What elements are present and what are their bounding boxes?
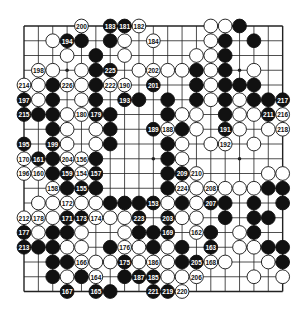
white-stone [175,63,189,77]
white-stone [247,63,261,77]
white-stone-icon [175,137,189,151]
black-stone [46,167,60,181]
white-stone-icon [60,49,74,63]
black-stone [233,19,247,33]
white-stone [204,78,218,92]
white-stone-icon [75,196,89,210]
black-stone-icon [190,93,204,107]
white-stone-icon [218,255,232,269]
white-stone-icon [46,34,60,48]
white-stone-icon [31,93,45,107]
black-stone [218,78,232,92]
white-stone: 174 [89,211,103,225]
white-stone [233,122,247,136]
white-stone-icon [75,93,89,107]
move-number: 158 [47,185,58,192]
black-stone-icon [103,137,117,151]
move-number: 186 [148,259,159,266]
white-stone-icon [247,108,261,122]
black-stone: 197 [17,93,31,107]
go-board-diagram: 2001831811821941841982252022142262221902… [0,0,304,312]
white-stone: 220 [175,285,189,299]
black-stone [89,78,103,92]
white-stone [31,196,45,210]
black-stone [46,255,60,269]
white-stone [118,34,132,48]
black-stone-icon [89,49,103,63]
star-point [238,68,242,72]
black-stone [261,181,275,195]
white-stone: 158 [46,181,60,195]
white-stone [46,63,60,77]
white-stone-icon [75,78,89,92]
move-number: 191 [220,126,231,133]
white-stone: 212 [17,211,31,225]
black-stone: 203 [161,211,175,225]
white-stone-icon [31,78,45,92]
white-stone: 224 [175,181,189,195]
black-stone-icon [46,108,60,122]
white-stone [31,226,45,240]
black-stone-icon [190,78,204,92]
black-stone-icon [233,78,247,92]
black-stone-icon [247,78,261,92]
white-stone-icon [204,34,218,48]
white-stone-icon [218,181,232,195]
move-number: 177 [19,229,30,236]
white-stone-icon [247,137,261,151]
black-stone [31,240,45,254]
black-stone: 221 [146,285,160,299]
white-stone-icon [204,93,218,107]
white-stone [132,63,146,77]
black-stone: 225 [103,63,117,77]
black-stone-icon [161,137,175,151]
move-number: 208 [205,185,216,192]
black-stone [46,240,60,254]
black-stone-icon [46,93,60,107]
white-stone [247,108,261,122]
move-number: 223 [134,215,145,222]
move-number: 201 [148,82,159,89]
black-stone [261,211,275,225]
move-number: 182 [134,23,145,30]
black-stone-icon [161,167,175,181]
white-stone-icon [261,122,275,136]
black-stone [247,226,261,240]
white-stone [276,270,290,284]
black-stone-icon [175,196,189,210]
white-stone-icon [75,240,89,254]
white-stone [204,49,218,63]
black-stone [161,167,175,181]
move-number: 174 [90,215,101,222]
white-stone-icon [175,152,189,166]
star-point [152,157,156,161]
white-stone: 160 [31,167,45,181]
move-number: 178 [33,215,44,222]
black-stone-icon [218,78,232,92]
white-stone-icon [247,240,261,254]
move-number: 187 [134,274,145,281]
black-stone [31,108,45,122]
white-stone [218,255,232,269]
black-stone: 173 [75,211,89,225]
move-number: 190 [119,82,130,89]
black-stone [146,240,160,254]
move-number: 207 [205,200,216,207]
white-stone-icon [132,63,146,77]
black-stone: 219 [161,285,175,299]
star-point [238,157,242,161]
white-stone [132,255,146,269]
black-stone [75,34,89,48]
black-stone-icon [161,181,175,195]
white-stone [233,108,247,122]
white-stone: 180 [75,108,89,122]
white-stone [233,226,247,240]
black-stone [118,270,132,284]
white-stone-icon [218,19,232,33]
white-stone-icon [175,270,189,284]
white-stone: 182 [132,19,146,33]
move-number: 217 [277,97,288,104]
white-stone-icon [261,167,275,181]
black-stone-icon [46,122,60,136]
black-stone-icon [247,226,261,240]
